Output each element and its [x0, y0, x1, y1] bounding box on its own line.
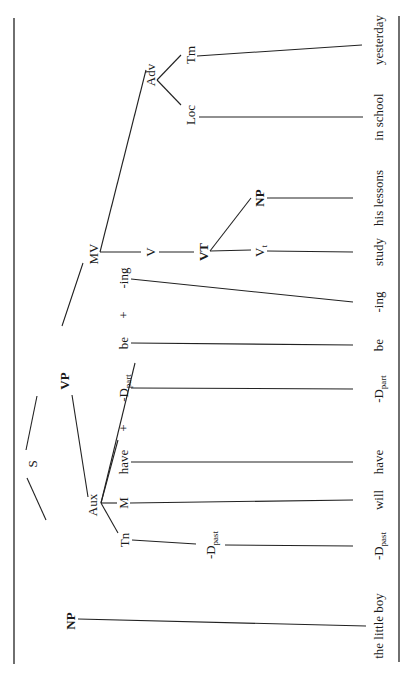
node-d-part: -Dpart	[116, 374, 133, 402]
node-d-past-mid: -Dpast	[203, 530, 220, 559]
tree-edges	[26, 45, 366, 626]
node-plus-1: +	[116, 424, 131, 431]
node-mv: MV	[86, 243, 101, 265]
leaf-d-past: -Dpast	[371, 531, 388, 560]
node-np-object: NP	[252, 189, 267, 206]
node-S: S	[25, 460, 40, 467]
node-tn: Tn	[117, 532, 132, 547]
node-loc: Loc	[183, 105, 198, 125]
node-tm: Tm	[183, 46, 198, 64]
node-have: have	[116, 450, 131, 475]
leaf-in-school: in school	[371, 93, 386, 141]
tree-nodes: S NP VP Aux Tn -Dpast M have + -Dpart be…	[25, 46, 269, 630]
syntax-tree-diagram: S NP VP Aux Tn -Dpast M have + -Dpart be…	[0, 0, 413, 684]
leaf-ing: -ing	[371, 291, 386, 312]
tree-leaves: the little boy -Dpast will have -Dpart b…	[371, 15, 388, 659]
leaf-be: be	[371, 339, 386, 352]
node-np-subject: NP	[63, 612, 78, 629]
leaf-yesterday: yesterday	[371, 15, 386, 65]
node-vt: VT	[196, 243, 211, 261]
leaf-his-lessons: his lessons	[371, 170, 386, 226]
node-vp: VP	[57, 372, 72, 389]
node-v-t: Vt	[252, 245, 269, 257]
node-ing: -ing	[116, 267, 131, 288]
leaf-d-part: -Dpart	[371, 375, 388, 403]
node-aux: Aux	[85, 493, 100, 516]
node-m: M	[116, 497, 131, 509]
node-adv: Adv	[143, 63, 158, 86]
node-plus-2: +	[116, 311, 131, 318]
leaf-will: will	[371, 490, 386, 511]
leaf-study: study	[371, 237, 386, 266]
leaf-have: have	[371, 450, 386, 475]
node-v: V	[143, 247, 158, 257]
node-be: be	[116, 337, 131, 350]
leaf-the-little-boy: the little boy	[371, 593, 386, 659]
